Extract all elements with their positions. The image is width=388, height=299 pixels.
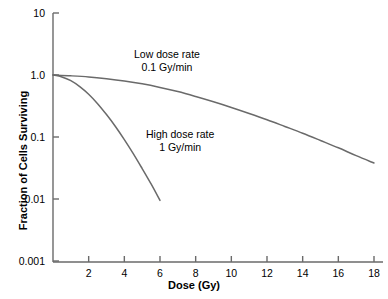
x-tick-label: 10	[211, 268, 251, 279]
x-tick-label: 6	[140, 268, 180, 279]
x-tick-label: 14	[283, 268, 323, 279]
y-tick-label: 10	[0, 8, 45, 19]
axes-group	[53, 13, 383, 262]
annotation-high-dose-rate-line1: High dose rate	[146, 128, 214, 141]
x-axis-title: Dose (Gy)	[0, 280, 388, 291]
annotation-high-dose-rate-line2: 1 Gy/min	[146, 141, 214, 154]
annotation-low-dose-rate-line1: Low dose rate	[134, 48, 200, 61]
cell-survival-chart: 101.00.10.010.001 24681012141618 Fractio…	[0, 0, 388, 299]
x-tick-label: 4	[104, 268, 144, 279]
y-tick-label: 1.0	[0, 70, 45, 81]
annotation-high-dose-rate: High dose rate 1 Gy/min	[146, 128, 214, 155]
x-tick-label: 18	[354, 268, 388, 279]
annotation-low-dose-rate-line2: 0.1 Gy/min	[134, 61, 200, 74]
survival-curve-high-dose-rate	[53, 75, 160, 200]
x-tick-label: 8	[176, 268, 216, 279]
x-tick-label: 12	[247, 268, 287, 279]
x-tick-label: 2	[69, 268, 109, 279]
y-axis-title: Fraction of Cells Surviving	[18, 86, 29, 236]
x-tick-label: 16	[318, 268, 358, 279]
annotation-low-dose-rate: Low dose rate 0.1 Gy/min	[134, 48, 200, 75]
y-tick-label: 0.001	[0, 256, 45, 267]
